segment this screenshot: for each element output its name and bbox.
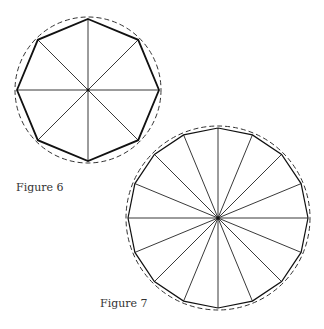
figure-6-octagon bbox=[15, 17, 161, 163]
radius-spoke bbox=[218, 154, 282, 218]
radius-spoke bbox=[88, 90, 138, 140]
radius-spoke bbox=[154, 154, 218, 218]
radius-spoke bbox=[218, 218, 282, 282]
figure-7-hexadecagon bbox=[126, 126, 310, 310]
center-point bbox=[217, 217, 220, 220]
figure-6-caption: Figure 6 bbox=[16, 181, 64, 194]
center-point bbox=[87, 89, 90, 92]
radius-spoke bbox=[38, 40, 88, 90]
diagram-canvas bbox=[0, 0, 324, 329]
radius-spoke bbox=[154, 218, 218, 282]
radius-spoke bbox=[88, 40, 138, 90]
figure-7-caption: Figure 7 bbox=[100, 297, 148, 310]
radius-spoke bbox=[38, 90, 88, 140]
